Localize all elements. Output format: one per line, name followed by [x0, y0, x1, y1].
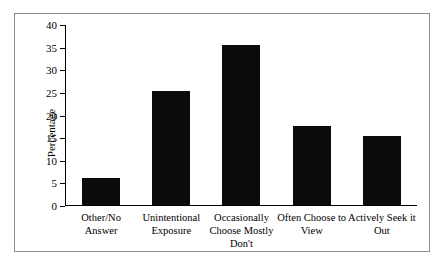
- bar: [293, 126, 331, 205]
- y-tick-label: 5: [52, 178, 58, 189]
- y-tick-mark: [60, 93, 65, 94]
- y-tick-mark: [60, 206, 65, 207]
- x-axis-label: OccasionallyChoose MostlyDon't: [206, 211, 276, 250]
- x-axis-label-line: Unintentional: [136, 211, 206, 224]
- x-axis-label: Other/NoAnswer: [66, 211, 136, 237]
- x-axis-label-line: Actively Seek it: [347, 211, 417, 224]
- y-tick-label: 20: [46, 110, 57, 121]
- y-tick-mark: [60, 70, 65, 71]
- y-tick-mark: [60, 183, 65, 184]
- bar: [82, 178, 120, 205]
- y-tick-label: 0: [52, 201, 58, 212]
- bar-slot: [206, 24, 276, 205]
- bar-series: [66, 24, 417, 205]
- bar: [363, 136, 401, 205]
- x-axis-label-line: Choose Mostly: [206, 224, 276, 237]
- y-tick-mark: [60, 138, 65, 139]
- x-axis-label: Actively Seek itOut: [347, 211, 417, 237]
- y-tick-mark: [60, 48, 65, 49]
- y-tick-label: 15: [46, 133, 57, 144]
- x-axis-label-line: Occasionally: [206, 211, 276, 224]
- bar-slot: [347, 24, 417, 205]
- x-axis-label-line: Exposure: [136, 224, 206, 237]
- x-axis-label-line: Other/No: [66, 211, 136, 224]
- plot-area: 0510152025303540: [65, 25, 417, 206]
- x-axis-label-line: Don't: [206, 237, 276, 250]
- x-axis-label-line: Out: [347, 224, 417, 237]
- y-tick-mark: [60, 161, 65, 162]
- y-tick-mark: [60, 25, 65, 26]
- x-axis-labels: Other/NoAnswerUnintentionalExposureOccas…: [66, 211, 417, 253]
- y-tick-label: 10: [46, 155, 57, 166]
- x-axis-label: Often Choose toView: [277, 211, 347, 237]
- y-tick-label: 35: [46, 42, 57, 53]
- bar-slot: [66, 24, 136, 205]
- x-axis-label-line: Often Choose to: [277, 211, 347, 224]
- x-axis-line: [65, 205, 417, 206]
- y-tick-label: 25: [46, 87, 57, 98]
- bar: [222, 45, 260, 205]
- x-axis-label-line: View: [277, 224, 347, 237]
- bar-slot: [277, 24, 347, 205]
- x-axis-label: UnintentionalExposure: [136, 211, 206, 237]
- y-tick-label: 40: [46, 20, 57, 31]
- y-tick-mark: [60, 116, 65, 117]
- bar: [152, 91, 190, 205]
- y-tick-label: 30: [46, 65, 57, 76]
- x-axis-label-line: Answer: [66, 224, 136, 237]
- bar-slot: [136, 24, 206, 205]
- chart-figure: Percentage 0510152025303540 Other/NoAnsw…: [14, 13, 430, 252]
